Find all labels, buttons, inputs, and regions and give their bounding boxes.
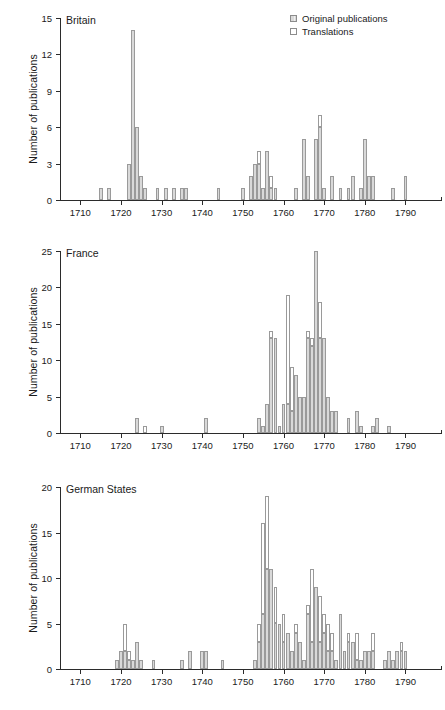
bar-segment-original — [184, 188, 188, 200]
y-tick-mark — [56, 533, 60, 534]
x-tick-mark — [284, 670, 285, 674]
bar-segment-original — [135, 418, 139, 433]
histogram-bar — [99, 188, 103, 200]
histogram-bar — [221, 660, 225, 669]
histogram-bar — [404, 176, 408, 200]
bar-segment-original — [334, 411, 338, 433]
y-tick-mark — [56, 164, 60, 165]
x-tick-label: 1750 — [232, 676, 253, 687]
y-tick-label: 20 — [28, 482, 52, 493]
histogram-bar — [359, 426, 363, 433]
bar-segment-original — [294, 188, 298, 200]
bar-segment-original — [330, 176, 334, 200]
y-tick-mark — [56, 669, 60, 670]
x-tick-mark — [202, 201, 203, 205]
y-tick-label: 15 — [28, 318, 52, 329]
histogram-bar — [274, 188, 278, 200]
y-tick-mark — [56, 54, 60, 55]
histogram-bar — [391, 188, 395, 200]
x-tick-mark — [284, 434, 285, 438]
bar-segment-translations — [269, 331, 273, 338]
y-tick-label: 0 — [28, 195, 52, 206]
x-axis-line — [60, 669, 442, 670]
bar-segment-translations — [257, 151, 261, 163]
histogram-bar — [371, 633, 375, 669]
x-tick-mark — [121, 201, 122, 205]
bar-segment-original — [306, 176, 310, 200]
legend: Original publications Translations — [290, 12, 388, 38]
bar-segment-translations — [269, 176, 273, 188]
plot-area-france: Number of publications France 0510152025… — [0, 237, 445, 469]
histogram-bar — [375, 418, 379, 433]
bar-segment-original — [139, 660, 143, 669]
y-tick-mark — [56, 200, 60, 201]
bar-segment-original — [391, 188, 395, 200]
bar-segment-translations — [143, 426, 147, 433]
y-tick-mark — [56, 433, 60, 434]
x-tick-label: 1750 — [232, 207, 253, 218]
bar-segment-translations — [127, 651, 131, 660]
x-tick-mark — [243, 670, 244, 674]
bar-segment-original — [221, 660, 225, 669]
y-tick-label: 10 — [28, 355, 52, 366]
histogram-bar — [204, 651, 208, 669]
bar-segment-original — [359, 426, 363, 433]
y-tick-mark — [56, 397, 60, 398]
x-tick-label: 1720 — [110, 207, 131, 218]
x-tick-label: 1770 — [314, 207, 335, 218]
bar-segment-original — [347, 418, 351, 433]
x-tick-label: 1790 — [395, 207, 416, 218]
legend-swatch-original-icon — [290, 15, 297, 22]
x-tick-mark — [80, 670, 81, 674]
x-tick-label: 1740 — [192, 440, 213, 451]
histogram-bar — [241, 188, 245, 200]
x-tick-mark — [405, 434, 406, 438]
bar-segment-original — [404, 651, 408, 669]
histogram-bar — [188, 651, 192, 669]
histogram-bar — [135, 418, 139, 433]
x-tick-mark — [324, 201, 325, 205]
histogram-bar — [339, 188, 343, 200]
bar-segment-original — [164, 188, 168, 200]
histogram-bar — [164, 188, 168, 200]
y-tick-mark — [56, 624, 60, 625]
x-tick-mark — [162, 670, 163, 674]
x-tick-label: 1780 — [354, 440, 375, 451]
bar-segment-original — [152, 660, 156, 669]
bar-segment-original — [274, 188, 278, 200]
x-tick-label: 1780 — [354, 676, 375, 687]
y-tick-label: 9 — [28, 85, 52, 96]
histogram-bar — [371, 176, 375, 200]
y-tick-mark — [56, 360, 60, 361]
x-tick-mark — [121, 434, 122, 438]
x-tick-mark — [284, 201, 285, 205]
y-tick-label: 5 — [28, 391, 52, 402]
y-tick-mark — [56, 91, 60, 92]
legend-item-translations: Translations — [290, 25, 388, 38]
x-tick-mark — [162, 201, 163, 205]
y-tick-mark — [56, 251, 60, 252]
bar-segment-translations — [318, 302, 322, 338]
y-tick-label: 25 — [28, 246, 52, 257]
bar-segment-original — [404, 176, 408, 200]
bar-segment-original — [143, 188, 147, 200]
bar-segment-original — [217, 188, 221, 200]
y-axis-label: Number of publications — [27, 44, 39, 174]
x-axis-line — [60, 200, 442, 201]
x-axis-end-cap — [441, 430, 442, 434]
x-tick-label: 1710 — [70, 440, 91, 451]
bar-segment-original — [351, 176, 355, 200]
histogram-bar — [143, 426, 147, 433]
histogram-bar — [156, 188, 160, 200]
x-tick-label: 1770 — [314, 440, 335, 451]
x-axis-end-cap — [441, 197, 442, 201]
bar-segment-translations — [371, 633, 375, 651]
x-tick-mark — [80, 201, 81, 205]
histogram-bar — [387, 426, 391, 433]
bar-segment-original — [172, 188, 176, 200]
histogram-bar — [306, 176, 310, 200]
y-tick-mark — [56, 578, 60, 579]
bar-segment-original — [322, 188, 326, 200]
bar-segment-translations — [347, 633, 351, 642]
bar-segment-original — [387, 426, 391, 433]
